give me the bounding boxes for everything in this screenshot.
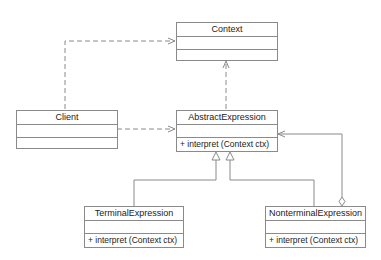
operation-interpret: + interpret (Context ctx): [266, 234, 365, 246]
uml-diagram-canvas: Context Client AbstractExpression + inte…: [0, 0, 381, 260]
class-context[interactable]: Context: [176, 22, 278, 61]
attributes-compartment: [17, 125, 117, 138]
operations-compartment: [177, 50, 277, 62]
class-name: TerminalExpression: [85, 207, 183, 221]
nonterminal-aggregation: [278, 134, 345, 206]
class-name: Client: [17, 111, 117, 125]
attributes-compartment: [266, 221, 365, 234]
terminal-generalization: [134, 152, 220, 206]
attributes-compartment: [177, 37, 277, 50]
class-name: NonterminalExpression: [266, 207, 365, 221]
class-name: AbstractExpression: [177, 111, 277, 125]
attributes-compartment: [85, 221, 183, 234]
attributes-compartment: [177, 125, 277, 138]
operations-compartment: [17, 138, 117, 150]
class-abstract-expression[interactable]: AbstractExpression + interpret (Context …: [176, 110, 278, 152]
class-nonterminal-expression[interactable]: NonterminalExpression + interpret (Conte…: [265, 206, 366, 248]
operation-interpret: + interpret (Context ctx): [177, 138, 277, 150]
operation-interpret: + interpret (Context ctx): [85, 234, 183, 246]
nonterminal-generalization: [226, 152, 314, 206]
class-name: Context: [177, 23, 277, 37]
class-client[interactable]: Client: [16, 110, 118, 149]
class-terminal-expression[interactable]: TerminalExpression + interpret (Context …: [84, 206, 184, 248]
client-context-dependency: [65, 41, 175, 109]
